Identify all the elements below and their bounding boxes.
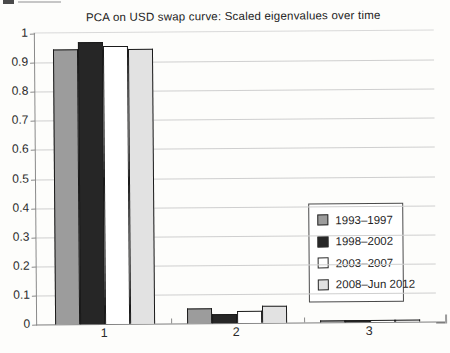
y-axis-tick	[31, 237, 36, 238]
x-axis-end-tick	[445, 314, 447, 323]
x-axis-category-label: 3	[349, 324, 389, 338]
bar-2003-2007-group-3	[370, 320, 395, 322]
legend-swatch	[318, 258, 329, 269]
scanned-figure-page: PCA on USD swap curve: Scaled eigenvalue…	[0, 0, 450, 353]
y-axis-tick-label: 0	[1, 318, 30, 330]
y-axis-tick	[31, 179, 36, 180]
bar-1998-2002-group-1	[78, 42, 105, 324]
legend-item: 1993–1997	[317, 209, 402, 231]
pca-eigenvalues-bar-chart: PCA on USD swap curve: Scaled eigenvalue…	[0, 0, 450, 353]
y-axis-tick	[31, 121, 36, 122]
bar-1998-2002-group-3	[345, 320, 370, 322]
y-axis-tick-label: 0.5	[0, 172, 29, 184]
x-axis-extension	[436, 321, 445, 323]
legend-item-label: 1998–2002	[335, 235, 393, 247]
y-axis-tick	[30, 92, 35, 93]
legend: 1993–19971998–20022003–20072008–Jun 2012	[308, 203, 404, 303]
y-axis-tick	[31, 208, 36, 209]
y-axis-tick-label: 0.6	[0, 143, 29, 155]
y-axis-tick	[32, 295, 37, 296]
y-axis-tick-label: 0.9	[0, 56, 28, 68]
y-axis-tick	[30, 63, 35, 64]
y-axis-tick-label: 0.7	[0, 114, 29, 126]
bar-1998-2002-group-2	[212, 314, 237, 323]
bar-1993-1997-group-3	[320, 320, 345, 322]
y-axis-tick	[31, 150, 36, 151]
x-axis-category-label: 2	[216, 325, 256, 339]
bar-2008-Jun-2012-group-3	[395, 320, 420, 322]
legend-swatch	[317, 236, 328, 247]
x-axis-category-label: 1	[84, 326, 124, 340]
y-axis-tick	[32, 325, 37, 326]
bar-1993-1997-group-2	[187, 308, 212, 323]
y-axis-tick-label: 0.4	[0, 201, 29, 213]
x-axis-tick	[171, 319, 172, 324]
bar-2008-Jun-2012-group-1	[128, 49, 155, 324]
legend-swatch	[318, 279, 329, 290]
bar-2003-2007-group-1	[103, 46, 130, 324]
y-axis-tick	[32, 266, 37, 267]
y-axis-tick	[30, 34, 35, 35]
y-axis-labels: 10.90.80.70.60.50.40.30.20.10	[0, 0, 449, 2]
x-axis-tick	[304, 317, 305, 322]
legend-item-label: 1993–1997	[335, 214, 393, 226]
y-axis-tick-label: 1	[0, 27, 28, 39]
y-axis-tick-label: 0.3	[0, 230, 29, 242]
bar-1993-1997-group-1	[53, 49, 80, 324]
y-axis-tick-label: 0.8	[0, 85, 28, 97]
legend-swatch	[317, 215, 328, 226]
legend-item-label: 2008–Jun 2012	[336, 278, 415, 291]
plot-area: 1993–19971998–20022003–20072008–Jun 2012	[34, 29, 436, 325]
y-axis-tick-label: 0.2	[1, 259, 30, 271]
bar-2008-Jun-2012-group-2	[262, 306, 287, 323]
y-axis-tick-label: 0.1	[1, 289, 30, 301]
chart-title: PCA on USD swap curve: Scaled eigenvalue…	[34, 8, 433, 23]
x-axis-labels: 123	[0, 0, 449, 2]
bar-2003-2007-group-2	[237, 311, 262, 323]
